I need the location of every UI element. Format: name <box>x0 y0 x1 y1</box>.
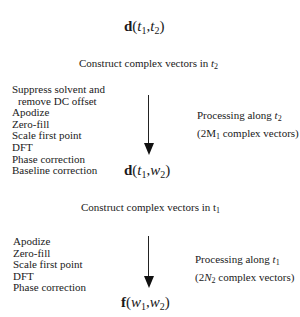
caption-construct-t2: Construct complex vectors in t2 <box>79 57 218 71</box>
note-sub: 2 <box>278 114 282 123</box>
note-text: (2 <box>195 271 204 283</box>
step-item: Suppress solvent and <box>12 84 105 96</box>
stage1-steps-list: Suppress solvent and remove DC offset Ap… <box>12 84 105 177</box>
arrow-down-icon <box>144 95 154 155</box>
paren: ) <box>165 294 170 310</box>
node-f-w1-w2: f(w1,w2) <box>121 294 170 312</box>
caption-text: Construct complex vectors in <box>79 57 211 69</box>
caption-sub: 2 <box>214 62 218 71</box>
caption-construct-t1: Construct complex vectors in t1 <box>81 201 220 215</box>
step-item: Apodize <box>13 236 86 248</box>
paren: ) <box>165 162 170 178</box>
note-text: Processing along <box>197 109 275 121</box>
note-sub: 1 <box>276 258 280 267</box>
arrow-down-icon <box>144 236 154 288</box>
var: w <box>150 162 160 178</box>
stage2-processing-note: Processing along t1 (2N2 complex vectors… <box>195 252 294 288</box>
caption-sub: 1 <box>216 206 220 215</box>
var: w <box>150 294 160 310</box>
stage1-processing-note: Processing along t2 (2M1 complex vectors… <box>197 108 299 144</box>
var: w <box>131 294 141 310</box>
note-text: complex vectors) <box>216 271 295 283</box>
step-item: Baseline correction <box>12 165 105 177</box>
step-item: Phase correction <box>13 282 86 294</box>
note-text: Processing along <box>195 253 273 265</box>
paren: ) <box>159 18 164 34</box>
node-d-t1-t2: d(t1,t2) <box>124 18 164 36</box>
note-var: N <box>204 271 211 283</box>
node-d-t1-w2: d(t1,w2) <box>124 162 170 180</box>
note-text: complex vectors) <box>220 127 299 139</box>
caption-text: Construct complex vectors in t <box>81 201 216 213</box>
note-text: (2M <box>197 127 216 139</box>
stage2-steps-list: Apodize Zero-fill Scale first point DFT … <box>13 236 86 294</box>
step-item: DFT <box>12 142 105 154</box>
